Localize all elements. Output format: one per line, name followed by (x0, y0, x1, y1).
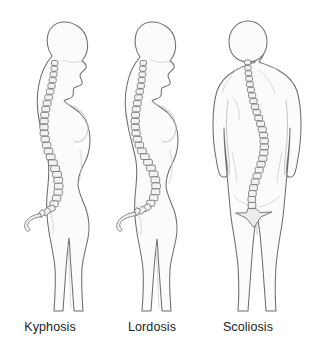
kyphosis-body-outline (37, 22, 90, 311)
figure-kyphosis (25, 22, 90, 311)
figure-lordosis (117, 22, 178, 311)
figure-scoliosis (213, 21, 301, 311)
spinal-conditions-illustration: Kyphosis Lordosis Scoliosis (0, 0, 316, 347)
kyphosis-coccyx (25, 214, 42, 232)
label-kyphosis: Kyphosis (24, 320, 76, 334)
label-scoliosis: Scoliosis (223, 320, 273, 334)
scoliosis-head-outline (229, 21, 267, 62)
illustration-canvas: Kyphosis Lordosis Scoliosis (0, 0, 316, 347)
lordosis-coccyx (117, 212, 136, 231)
label-lordosis: Lordosis (128, 320, 176, 334)
